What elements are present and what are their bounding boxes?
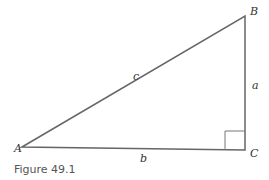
vertex-label-c: C: [250, 147, 259, 160]
figure-caption: Figure 49.1: [14, 163, 76, 176]
side-label-a: a: [252, 79, 259, 92]
vertex-label-a: A: [13, 142, 22, 155]
side-label-b: b: [140, 152, 147, 165]
right-triangle-diagram: A B C a b c: [0, 0, 269, 180]
vertex-label-b: B: [249, 5, 258, 18]
right-angle-marker: [225, 131, 245, 150]
triangle-abc: [22, 16, 245, 150]
side-label-c: c: [133, 70, 139, 83]
